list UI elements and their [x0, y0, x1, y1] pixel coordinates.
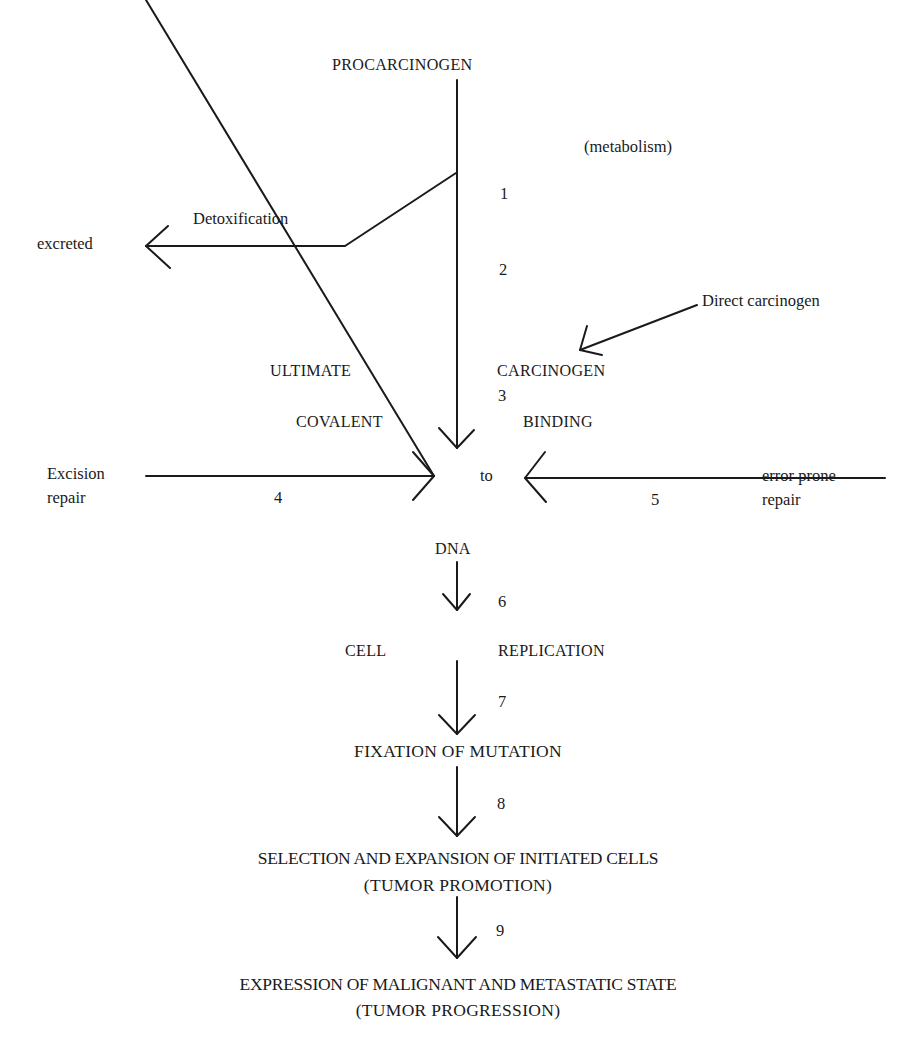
tumor-progression-label: (TUMOR PROGRESSION)	[0, 1002, 916, 1020]
step-7-label: 7	[498, 694, 506, 711]
cell-label: CELL	[345, 642, 386, 660]
detoxification-label: Detoxification	[193, 211, 288, 228]
covalent-label: COVALENT	[296, 413, 383, 431]
excision-label-line2: repair	[47, 490, 85, 507]
arrowhead-direct-carcinogen	[580, 326, 602, 355]
step-9-label: 9	[496, 923, 504, 940]
step-4-label: 4	[274, 490, 282, 507]
replication-label: REPLICATION	[498, 642, 605, 660]
step-8-label: 8	[497, 796, 505, 813]
excreted-label: excreted	[37, 236, 93, 253]
ultimate-label: ULTIMATE	[270, 362, 351, 380]
error-prone-label-line2: repair	[762, 492, 800, 509]
excision-label-line1: Excision	[47, 466, 105, 483]
step-1-label: 1	[500, 186, 508, 203]
step-5-label: 5	[651, 492, 659, 509]
tumor-promotion-label: (TUMOR PROMOTION)	[0, 877, 916, 895]
to-label: to	[480, 468, 493, 485]
step-2-label: 2	[499, 262, 507, 279]
fixation-of-mutation-label: FIXATION OF MUTATION	[0, 743, 916, 761]
binding-label: BINDING	[523, 413, 593, 431]
direct-carcinogen-label: Direct carcinogen	[702, 293, 820, 310]
procarcinogen-label: PROCARCINOGEN	[332, 56, 472, 74]
carcinogen-label: CARCINOGEN	[497, 362, 605, 380]
metabolism-label: (metabolism)	[584, 139, 672, 156]
error-prone-label-line1: error prone	[762, 468, 836, 485]
expression-malignant-label: EXPRESSION OF MALIGNANT AND METASTATIC S…	[0, 976, 916, 994]
direct-carcinogen-line	[580, 305, 697, 350]
step-6-label: 6	[498, 594, 506, 611]
step-3-label: 3	[498, 388, 506, 405]
dna-label: DNA	[435, 540, 471, 558]
selection-expansion-label: SELECTION AND EXPANSION OF INITIATED CEL…	[0, 850, 916, 868]
